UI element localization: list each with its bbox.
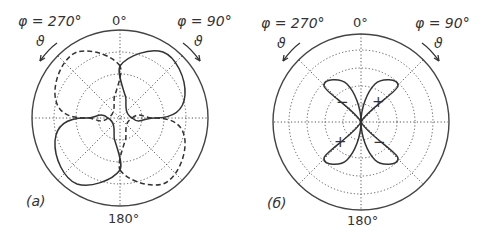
theta-left-label-a: ϑ — [36, 33, 45, 49]
theta-left-label-b: ϑ — [277, 35, 286, 51]
angle-180-label-a: 180° — [108, 211, 139, 226]
polar-plot-a: φ = 270° 0° φ = 90° ϑ ϑ (a) 180° — [0, 0, 242, 239]
lobe-sign-upper-left: − — [336, 93, 349, 111]
phi-270-label-a: φ = 270° — [18, 13, 82, 29]
theta-right-label-a: ϑ — [194, 33, 203, 49]
lobe-sign-lower-left: + — [334, 133, 347, 151]
angle-0-label-a: 0° — [112, 13, 127, 28]
theta-right-label-b: ϑ — [434, 35, 443, 51]
phi-270-label-b: φ = 270° — [261, 15, 325, 31]
polar-plot-b: − + + − φ = 270° 0° φ = 90° ϑ ϑ (б) 180° — [243, 0, 485, 239]
panel-label-b: (б) — [267, 195, 287, 211]
panel-label-a: (a) — [26, 193, 46, 209]
angle-0-label-b: 0° — [353, 15, 368, 30]
lobe-sign-lower-right: − — [373, 133, 386, 151]
phi-90-label-b: φ = 90° — [415, 15, 470, 31]
lobe-sign-upper-right: + — [372, 93, 385, 111]
angle-180-label-b: 180° — [347, 213, 378, 228]
phi-90-label-a: φ = 90° — [177, 13, 232, 29]
